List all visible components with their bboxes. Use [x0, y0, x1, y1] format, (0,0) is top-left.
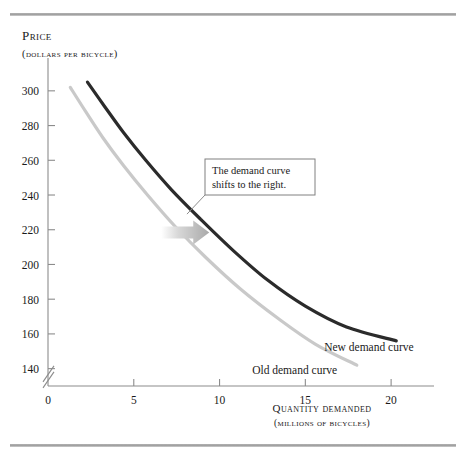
- callout-annotation: The demand curveshifts to the right.: [187, 159, 315, 214]
- y-tick-label: 180: [22, 294, 40, 306]
- shift-arrow-icon: [161, 220, 209, 244]
- curve-label: New demand curve: [324, 341, 413, 353]
- x-tick-label: 20: [385, 394, 397, 406]
- x-axis-title-line1: Quantity demanded: [273, 402, 372, 414]
- curve-labels: Old demand curveNew demand curve: [252, 341, 413, 376]
- y-tick-label: 280: [22, 120, 40, 132]
- demand-curve-line: [87, 82, 396, 341]
- y-tick-label: 240: [22, 190, 40, 202]
- demand-curve-line: [70, 87, 356, 365]
- figure-container: Price (dollars per bicycle) Quantity dem…: [0, 0, 466, 460]
- demand-curve-chart: Price (dollars per bicycle) Quantity dem…: [0, 0, 466, 460]
- shift-arrow-shape: [161, 220, 209, 244]
- curve-label: Old demand curve: [252, 364, 337, 376]
- y-axis-title-line1: Price: [22, 28, 52, 43]
- y-tick-label: 200: [22, 259, 40, 271]
- y-tick-label: 220: [22, 224, 40, 236]
- y-tick-label: 160: [22, 328, 40, 340]
- demand-curves: [70, 82, 396, 365]
- x-tick-label: 10: [214, 394, 226, 406]
- x-axis-title-line2: (millions of bicycles): [274, 418, 370, 429]
- y-axis-title-line2: (dollars per bicycle): [22, 48, 118, 60]
- x-tick-label: 5: [131, 394, 137, 406]
- y-axis-ticks: 140160180200220240260280300: [22, 85, 55, 375]
- x-tick-label: 0: [45, 394, 51, 406]
- y-tick-label: 260: [22, 155, 40, 167]
- callout-text-line1: The demand curve: [212, 165, 290, 176]
- y-tick-label: 300: [22, 85, 40, 97]
- x-tick-label: 15: [300, 394, 312, 406]
- callout-text-line2: shifts to the right.: [212, 179, 286, 190]
- y-tick-label: 140: [22, 363, 40, 375]
